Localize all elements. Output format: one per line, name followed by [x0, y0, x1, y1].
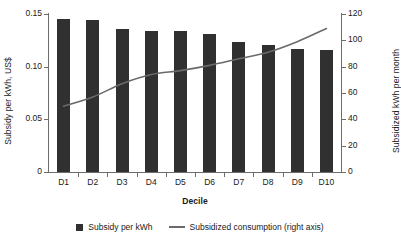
legend-item-subsidy: Subsidy per kWh	[76, 222, 152, 232]
legend-item-consumption: Subsidized consumption (right axis)	[169, 222, 324, 232]
legend-label-subsidy: Subsidy per kWh	[88, 222, 152, 232]
chart-legend: Subsidy per kWh Subsidized consumption (…	[0, 222, 400, 232]
line-marker-icon	[169, 226, 185, 228]
square-marker-icon	[76, 224, 83, 231]
legend-label-consumption: Subsidized consumption (right axis)	[190, 222, 324, 232]
line-path	[64, 28, 327, 106]
